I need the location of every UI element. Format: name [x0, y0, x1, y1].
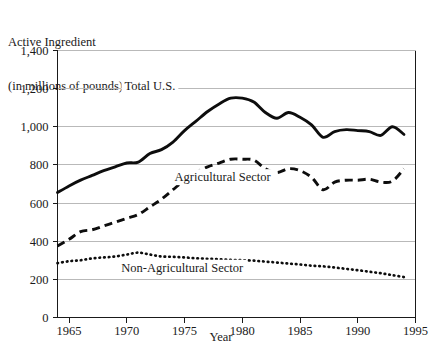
y-tick-label-800: 800	[30, 158, 49, 172]
x-axis-title: Year	[0, 330, 442, 345]
series-annotation-label-non-agricultural-sector: Non-Agricultural Sector	[121, 261, 244, 275]
y-tick-label-600: 600	[30, 197, 49, 211]
line-chart-plot: 02004006008001,0001,2001,400196519701975…	[0, 0, 442, 359]
y-tick-label-1000: 1,000	[20, 120, 48, 134]
series-annotation-label-total-u-s: Total U.S.	[124, 79, 175, 93]
y-tick-label-0: 0	[42, 311, 48, 325]
y-tick-label-1200: 1,200	[20, 82, 48, 96]
y-tick-label-400: 400	[30, 235, 49, 249]
series-annotation-non-agricultural-sector: Non-Agricultural Sector	[118, 260, 247, 276]
y-tick-label-200: 200	[30, 273, 49, 287]
y-tick-label-1400: 1,400	[20, 44, 48, 58]
series-annotation-agricultural-sector: Agricultural Sector	[172, 169, 275, 185]
series-annotation-label-agricultural-sector: Agricultural Sector	[175, 170, 272, 184]
series-annotation-total-u-s: Total U.S.	[121, 78, 178, 94]
chart-container: Active Ingredient (in millions of pounds…	[0, 0, 442, 359]
